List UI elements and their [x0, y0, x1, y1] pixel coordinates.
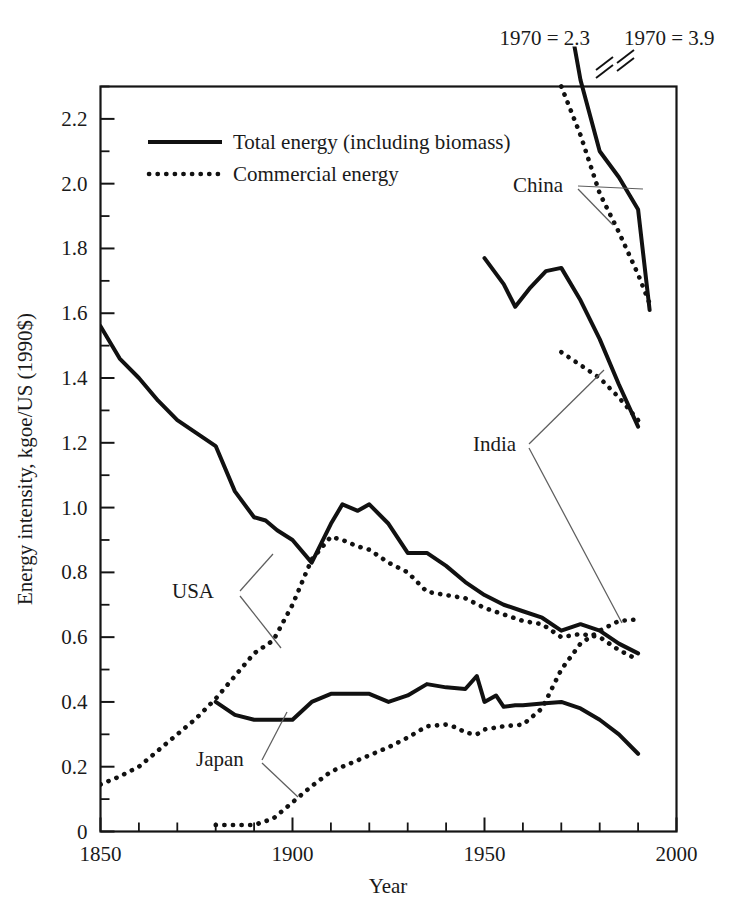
y-axis-title: Energy intensity, kgoe/US (1990$) — [13, 313, 37, 605]
y-tick-label: 1.0 — [61, 496, 87, 520]
chart-svg: 00.20.40.60.81.01.21.41.61.82.02.2 18501… — [0, 0, 739, 914]
legend-label-total: Total energy (including biomass) — [233, 130, 511, 154]
y-tick-label: 0 — [77, 820, 88, 844]
y-tick-label: 1.2 — [61, 431, 87, 455]
y-tick-label: 0.2 — [61, 755, 87, 779]
y-tick-label: 0.4 — [61, 690, 88, 714]
y-tick-label: 1.4 — [61, 366, 88, 390]
annotation-china-total: 1970 = 3.9 — [624, 26, 715, 50]
y-tick-label: 1.6 — [61, 301, 87, 325]
legend-label-commercial: Commercial energy — [233, 162, 399, 186]
y-tick-label: 1.8 — [61, 236, 87, 260]
x-axis-title: Year — [369, 874, 408, 898]
country-label-japan: Japan — [196, 747, 244, 771]
energy-intensity-chart: 00.20.40.60.81.01.21.41.61.82.02.2 18501… — [0, 0, 739, 914]
country-label-india: India — [473, 432, 517, 456]
x-tick-label: 1850 — [80, 842, 122, 866]
y-tick-label: 0.8 — [61, 560, 87, 584]
y-tick-label: 2.0 — [61, 172, 87, 196]
y-tick-label: 0.6 — [61, 625, 87, 649]
x-tick-label: 1900 — [272, 842, 314, 866]
annotation-china-commercial: 1970 = 2.3 — [499, 26, 590, 50]
country-label-china: China — [513, 173, 564, 197]
y-tick-label: 2.2 — [61, 107, 87, 131]
x-tick-label: 1950 — [464, 842, 506, 866]
country-label-usa: USA — [172, 579, 215, 603]
x-tick-label: 2000 — [656, 842, 698, 866]
